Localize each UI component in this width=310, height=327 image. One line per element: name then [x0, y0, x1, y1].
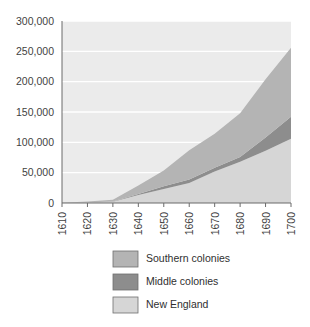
- legend-item[interactable]: New England: [113, 297, 209, 313]
- x-tick-label: 1650: [158, 212, 170, 236]
- x-tick-label: 1630: [107, 212, 119, 236]
- x-tick-label: 1660: [183, 212, 195, 236]
- x-tick-label: 1610: [56, 212, 68, 236]
- x-axis-ticks: 1610162016301640165016601670168016901700: [56, 203, 297, 235]
- y-tick-label: 250,000: [16, 45, 54, 57]
- y-axis-ticks: 050,000100,000150,000200,000250,000300,0…: [16, 15, 54, 209]
- legend-swatch: [113, 297, 138, 313]
- y-tick-label: 100,000: [16, 136, 54, 148]
- legend-swatch: [113, 251, 138, 267]
- legend-item[interactable]: Southern colonies: [113, 251, 230, 267]
- y-tick-label: 300,000: [16, 15, 54, 27]
- y-tick-label: 150,000: [16, 106, 54, 118]
- y-tick-label: 0: [48, 197, 54, 209]
- x-tick-label: 1680: [234, 212, 246, 236]
- x-tick-label: 1690: [260, 212, 272, 236]
- legend-item[interactable]: Middle colonies: [113, 274, 218, 290]
- legend-label: Middle colonies: [146, 275, 218, 287]
- legend: Southern coloniesMiddle coloniesNew Engl…: [113, 251, 230, 313]
- y-tick-label: 200,000: [16, 75, 54, 87]
- legend-label: Southern colonies: [146, 252, 230, 264]
- x-tick-label: 1640: [132, 212, 144, 236]
- legend-swatch: [113, 274, 138, 290]
- legend-label: New England: [146, 298, 209, 310]
- x-tick-label: 1700: [285, 212, 297, 236]
- x-tick-label: 1670: [209, 212, 221, 236]
- stacked-area-chart: 050,000100,000150,000200,000250,000300,0…: [0, 0, 310, 327]
- x-tick-label: 1620: [81, 212, 93, 236]
- y-tick-label: 50,000: [22, 166, 54, 178]
- chart-canvas: 050,000100,000150,000200,000250,000300,0…: [0, 0, 310, 327]
